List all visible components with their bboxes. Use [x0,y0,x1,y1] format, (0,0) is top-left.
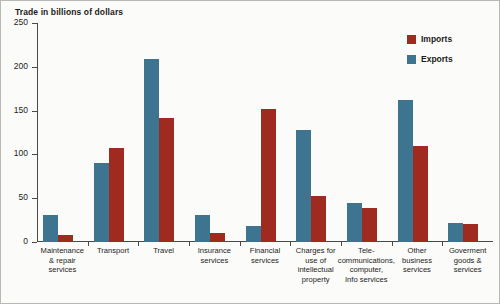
bar-exports [144,59,159,242]
bar-imports [109,148,124,242]
bar-exports [43,215,58,242]
bar-exports [296,130,311,242]
y-tick-label: 250 [14,17,28,27]
legend-label: Imports [421,34,452,44]
bar-exports [94,163,109,242]
y-tick-label: 0 [23,236,28,246]
bar-group [341,23,392,242]
bar-imports [362,208,377,242]
y-tick: 0 [32,242,37,243]
bar-group [290,23,341,242]
chart-title: Trade in billions of dollars [15,7,123,17]
bar-imports [58,235,73,242]
bar-imports [463,224,478,242]
y-tick-label: 50 [19,192,28,202]
chart-figure: Trade in billions of dollars 05010015020… [0,0,500,304]
legend-item-imports[interactable]: Imports [407,34,453,44]
chart-legend: ImportsExports [407,34,453,74]
bar-group [37,23,88,242]
bar-exports [347,203,362,242]
bar-group [88,23,139,242]
y-tick-label: 100 [14,148,28,158]
y-tick-label: 150 [14,105,28,115]
bar-imports [210,233,225,242]
bar-imports [311,196,326,242]
legend-item-exports[interactable]: Exports [407,54,453,64]
bar-group [138,23,189,242]
bar-imports [413,146,428,242]
bar-exports [195,215,210,242]
y-tick-label: 200 [14,61,28,71]
bar-exports [398,100,413,242]
x-axis-label: Govermentgoods &services [438,246,497,275]
legend-label: Exports [421,54,453,64]
bar-exports [448,223,463,242]
bar-group [240,23,291,242]
bar-exports [246,226,261,242]
bar-imports [261,109,276,242]
legend-swatch-icon [407,35,416,44]
legend-swatch-icon [407,55,416,64]
bar-imports [159,118,174,242]
bar-group [189,23,240,242]
